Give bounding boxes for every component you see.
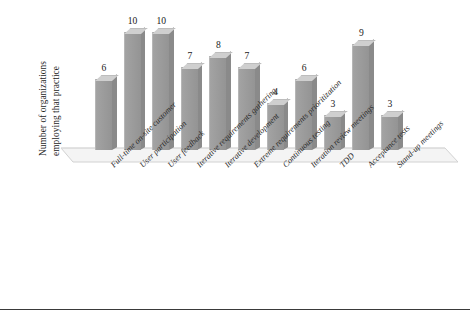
x-axis-tick-labels: Full-time on-site customerUser participa… [0, 0, 470, 322]
x-axis-tick-label: TDD [338, 151, 356, 169]
footer-rule [0, 309, 470, 310]
x-axis-tick-label: Iterative development [223, 112, 281, 170]
chart-figure: Number of organizations employing that p… [0, 0, 470, 322]
